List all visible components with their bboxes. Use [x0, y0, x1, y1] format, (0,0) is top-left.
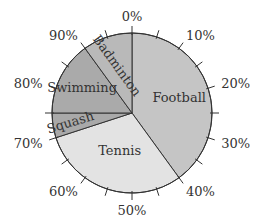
tick-label: 10% [186, 28, 215, 43]
slice-label-swimming: Swimming [47, 80, 117, 95]
tick-label: 60% [49, 184, 78, 199]
tick-label: 40% [186, 184, 215, 199]
tick-label: 90% [49, 28, 78, 43]
slice-label-football: Football [152, 90, 206, 105]
slice-label-tennis: Tennis [98, 143, 141, 158]
tick-label: 20% [221, 76, 250, 91]
tick-label: 30% [221, 136, 250, 151]
tick-label: 80% [14, 76, 43, 91]
pie-chart: 0%10%20%30%40%50%60%70%80%90% FootballTe… [0, 0, 256, 222]
tick-label: 70% [14, 136, 43, 151]
tick-label: 50% [118, 203, 147, 218]
tick-label: 0% [122, 9, 143, 24]
